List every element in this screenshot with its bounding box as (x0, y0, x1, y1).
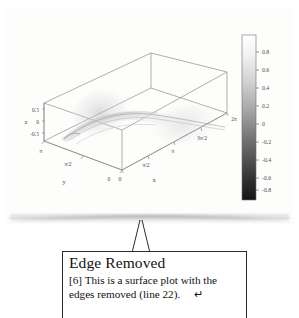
colorbar-tick-7: -0.6 (262, 175, 271, 181)
z-axis-group: 0.5 0 -0.5 z (25, 103, 45, 141)
callout-body-line-2-wrap: edges removed (line 22).↵ (69, 288, 240, 302)
colorbar-tick-5: -0.2 (262, 139, 271, 145)
y-tick-0: 0 (108, 176, 111, 182)
y-axis-label: y (62, 178, 66, 185)
return-symbol-icon: ↵ (180, 288, 203, 301)
x-tick-3pi-half: 3π/2 (197, 135, 207, 141)
scanned-page: 0.5 0 -0.5 z π π/2 0 y (6, 8, 293, 218)
z-tick-2: -0.5 (30, 131, 39, 137)
colorbar: 0.8 0.6 0.4 0.2 0 -0.2 -0.4 -0.6 -0.8 (242, 35, 271, 200)
colorbar-gradient (242, 35, 256, 200)
callout-leader-lines (120, 220, 160, 253)
x-axis-label: x (152, 176, 156, 183)
colorbar-tick-8: -0.8 (262, 187, 271, 193)
callout-body-line-1: [6] This is a surface plot with the (69, 274, 240, 288)
surface-plot-svg: 0.5 0 -0.5 z π π/2 0 y (6, 8, 293, 218)
figure-3d-surface-plot: 0.5 0 -0.5 z π π/2 0 y (6, 8, 293, 218)
z-axis-label: z (25, 119, 28, 125)
x-tick-2pi: 2π (231, 116, 237, 122)
callout-box: Edge Removed [6] This is a surface plot … (62, 251, 247, 318)
surface-mesh (61, 80, 225, 155)
colorbar-tick-2: 0.4 (262, 85, 269, 91)
y-tick-pi-half: π/2 (64, 161, 71, 167)
colorbar-tick-0: 0.8 (262, 49, 269, 55)
colorbar-tick-3: 0.2 (262, 103, 269, 109)
colorbar-tick-6: -0.4 (262, 157, 271, 163)
colorbar-tick-4: 0 (262, 121, 265, 127)
x-tick-0: 0 (119, 176, 122, 182)
x-tick-pi: π (172, 148, 175, 154)
x-tick-pi-half: π/2 (142, 162, 149, 168)
z-tick-0: 0.5 (32, 107, 39, 113)
y-tick-pi: π (40, 148, 43, 154)
callout-body-line-2: edges removed (line 22). (69, 288, 180, 300)
y-axis-group: π π/2 0 y (40, 141, 122, 185)
z-tick-1: 0 (36, 119, 39, 125)
colorbar-tick-1: 0.6 (262, 67, 269, 73)
callout-title: Edge Removed (63, 252, 246, 271)
callout-body: [6] This is a surface plot with the edge… (63, 271, 246, 301)
